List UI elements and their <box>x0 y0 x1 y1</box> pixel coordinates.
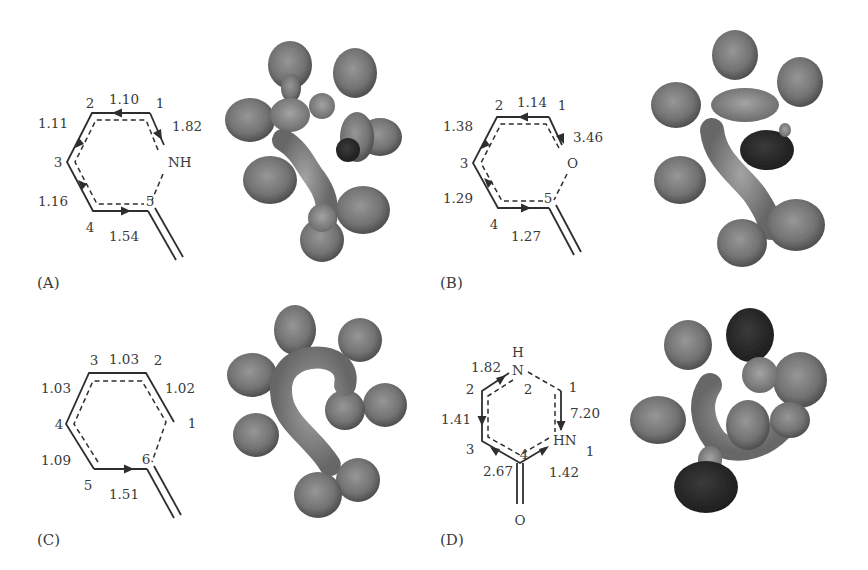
heteroatom-label: N <box>512 362 524 378</box>
arrow-icon <box>496 375 506 385</box>
bond-value: 1.14 <box>517 94 547 110</box>
bond-value: 1.03 <box>41 380 71 396</box>
bond-value: 1.38 <box>443 118 473 134</box>
panel-label: (B) <box>440 274 463 292</box>
atom-label: 3 <box>90 352 99 368</box>
arrow-icon <box>490 447 500 456</box>
bond-value: 1.42 <box>549 464 579 480</box>
panel-b-ring-diagram: 2 1 3 4 5 O 1.14 1.38 1.29 1.27 3.46 (B) <box>440 94 603 292</box>
panel-a-ring-diagram: 2 1 3 4 5 NH 1.10 1.11 1.16 1.54 1.82 (A… <box>37 91 202 292</box>
panel-label: (A) <box>37 274 60 292</box>
atom-label: 4 <box>55 416 64 432</box>
dashed-bond-o-5 <box>554 174 567 200</box>
atom-label: 4 <box>520 446 529 462</box>
atom-label: 1 <box>586 443 595 459</box>
panel-label: (D) <box>440 531 464 549</box>
solid-bond-path <box>67 113 150 211</box>
atom-label: 2 <box>466 381 475 397</box>
bond-value: 3.46 <box>573 129 603 145</box>
heteroatom-label: NH <box>168 154 192 170</box>
solid-bond-path <box>482 373 545 463</box>
panel-b-orbital-isosurface <box>651 30 825 267</box>
bond-value: 1.51 <box>109 486 139 502</box>
bond-value: 1.02 <box>165 380 195 396</box>
bond-value: 1.82 <box>172 118 202 134</box>
bond-value: 7.20 <box>570 405 600 421</box>
double-bond-line <box>148 211 176 260</box>
panel-c-orbital-isosurface <box>227 305 407 518</box>
bond-value: 1.10 <box>109 91 139 107</box>
atom-label: 6 <box>142 451 151 467</box>
panel-c-ring-diagram: 3 2 1 4 5 6 1.03 1.03 1.02 1.09 1.51 (C) <box>37 351 196 549</box>
arrow-icon <box>539 446 549 456</box>
atom-label: 2 <box>495 97 504 113</box>
arrow-icon <box>478 416 487 426</box>
arrow-icon <box>557 421 566 431</box>
panel-d-orbital-isosurface <box>630 308 827 513</box>
atom-label: 5 <box>84 477 93 493</box>
atom-label: 3 <box>466 441 475 457</box>
panel-a-orbital-isosurface <box>225 41 402 262</box>
bond-value: 2.67 <box>483 463 513 479</box>
solid-bond-1-n <box>150 113 164 145</box>
heteroatom-label: O <box>567 155 578 171</box>
atom-label: 2 <box>154 352 163 368</box>
atom-label: 1 <box>156 95 165 111</box>
atom-label: 4 <box>490 216 499 232</box>
dashed-bond-n-1 <box>528 372 561 391</box>
heteroatom-label: HN <box>553 432 577 448</box>
atom-label: 1 <box>558 97 567 113</box>
molecular-orbital-figure: 2 1 3 4 5 NH 1.10 1.11 1.16 1.54 1.82 (A… <box>0 0 868 570</box>
bond-value: 1.09 <box>41 452 71 468</box>
panel-d-ring-diagram: H N HN O 1 2 2 3 4 1 1.82 1.41 2.67 1.42… <box>440 344 600 549</box>
arrow-icon <box>521 204 531 213</box>
atom-label: 5 <box>146 193 155 209</box>
atom-label: 4 <box>86 219 95 235</box>
atom-label: 5 <box>544 190 553 206</box>
atom-label: 2 <box>86 95 95 111</box>
arrow-icon <box>518 113 528 122</box>
atom-label: 1 <box>188 415 197 431</box>
bond-value: 1.54 <box>109 228 139 244</box>
atom-label: 3 <box>54 154 63 170</box>
arrow-icon <box>121 207 131 216</box>
solid-bond-1-o <box>549 117 562 145</box>
bond-value: 1.41 <box>441 411 471 427</box>
solid-bond-path <box>66 373 174 469</box>
bond-value: 1.27 <box>511 228 541 244</box>
bond-value: 1.11 <box>38 115 68 131</box>
hydrogen-label: H <box>512 344 524 360</box>
atom-label: 2 <box>524 381 533 397</box>
oxygen-label: O <box>514 512 525 528</box>
bond-value: 1.03 <box>109 351 139 367</box>
bond-value: 1.29 <box>443 190 473 206</box>
atom-label: 1 <box>569 379 578 395</box>
arrow-icon <box>124 465 134 474</box>
dashed-bond-path <box>74 381 166 462</box>
dashed-bond-path <box>488 380 549 455</box>
bond-value: 1.82 <box>471 359 501 375</box>
solid-bond-path <box>473 117 549 208</box>
arrow-icon <box>112 109 122 118</box>
atom-label: 3 <box>460 155 469 171</box>
dashed-bond-path <box>75 120 158 204</box>
panel-label: (C) <box>37 531 60 549</box>
bond-value: 1.16 <box>38 193 68 209</box>
double-bond-line <box>155 208 183 257</box>
